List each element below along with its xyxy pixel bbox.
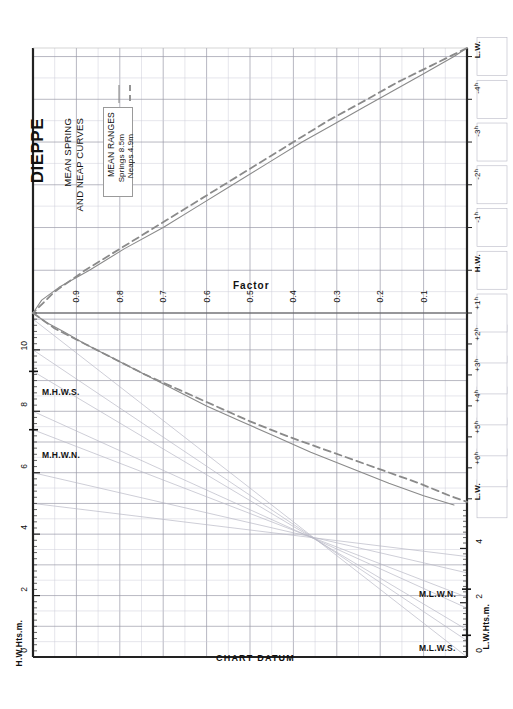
factor-tick-0.3: 0.3 xyxy=(332,290,342,302)
marker-mlwn: M.L.W.N. xyxy=(419,589,456,599)
factor-tick-0.4: 0.4 xyxy=(288,290,298,302)
factor-tick-0.6: 0.6 xyxy=(202,290,212,302)
right-tick-0: 0 xyxy=(474,648,484,653)
tidal-curve-plot xyxy=(0,0,513,709)
factor-tick-0.2: 0.2 xyxy=(375,290,385,302)
legend-title: MEAN RANGES xyxy=(106,112,116,177)
marker-mhwn: M.H.W.N. xyxy=(42,450,80,460)
hour-tick-LW: L.W. xyxy=(473,483,482,500)
subtitle-line-1: MEAN SPRING xyxy=(62,118,73,187)
left-tick-2: 2 xyxy=(19,587,29,592)
left-tick-4: 4 xyxy=(19,525,29,530)
hour-tick-+1ʰ: +1ʰ xyxy=(473,297,482,310)
factor-tick-0.1: 0.1 xyxy=(419,290,429,302)
hour-tick--3ʰ: -3ʰ xyxy=(473,126,482,137)
factor-tick-0.8: 0.8 xyxy=(115,290,125,302)
factor-tick-0.7: 0.7 xyxy=(158,290,168,302)
hour-tick--2ʰ: -2ʰ xyxy=(473,169,482,180)
hour-tick-HW: H.W. xyxy=(473,254,482,272)
marker-mhws: M.H.W.S. xyxy=(42,387,80,397)
right-axis-title: L.W.Hts.m. xyxy=(481,604,491,649)
hour-tick-+4ʰ: +4ʰ xyxy=(473,390,482,403)
left-tick-10: 10 xyxy=(19,341,29,350)
hour-tick--4ʰ: -4ʰ xyxy=(473,83,482,94)
factor-tick-0.5: 0.5 xyxy=(245,290,255,302)
left-tick-0: 0 xyxy=(19,648,29,653)
hour-tick-+2ʰ: +2ʰ xyxy=(473,328,482,341)
hour-tick-+3ʰ: +3ʰ xyxy=(473,359,482,372)
hour-tick--1ʰ: -1ʰ xyxy=(473,212,482,223)
right-tick-2: 2 xyxy=(474,594,484,599)
hour-tick-+5ʰ: +5ʰ xyxy=(473,421,482,434)
subtitle-line-2: AND NEAP CURVES xyxy=(74,118,85,211)
tidal-curve-page: DIEPPE MEAN SPRING AND NEAP CURVES MEAN … xyxy=(0,0,513,709)
left-tick-6: 6 xyxy=(19,464,29,469)
chart-datum-label: CHART DATUM xyxy=(216,653,295,663)
marker-mlws: M.L.W.S. xyxy=(419,643,456,653)
left-tick-8: 8 xyxy=(19,402,29,407)
legend-item-neaps: Neaps 4.9m xyxy=(126,134,135,178)
right-tick-4: 4 xyxy=(474,539,484,544)
factor-tick-0.9: 0.9 xyxy=(71,290,81,302)
left-axis-title: H.W.Hts.m. xyxy=(14,620,24,666)
hour-tick-LW: L.W. xyxy=(473,41,482,58)
legend-item-springs: Springs 8.5m xyxy=(117,134,126,182)
hour-tick-+6ʰ: +6ʰ xyxy=(473,452,482,465)
page-title: DIEPPE xyxy=(28,118,48,183)
